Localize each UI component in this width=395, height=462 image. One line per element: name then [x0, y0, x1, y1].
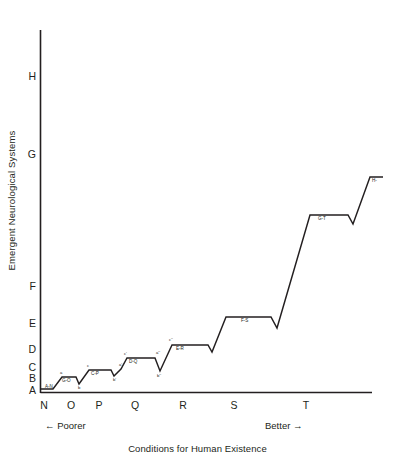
point-label-b-pp: b'' — [157, 373, 161, 378]
point-label-c: c — [87, 363, 89, 368]
direction-label-poorer: ← Poorer — [45, 421, 86, 431]
data-line-emergent-systems — [41, 177, 383, 389]
x-axis-title: Conditions for Human Existence — [0, 443, 395, 454]
segment-label-D-Q: D-Q — [129, 359, 138, 364]
point-label-c-pp: c'' — [169, 337, 173, 342]
point-label-a-pp: a'' — [156, 350, 160, 355]
segment-label-E-R: E-R — [176, 346, 185, 351]
point-label-b-p: b' — [113, 377, 116, 382]
segment-label-G-T: G-T — [318, 216, 326, 221]
segment-label-A-N: A-N — [45, 384, 53, 389]
point-label-a-p: a' — [119, 362, 122, 367]
direction-label-better: Better → — [265, 421, 303, 431]
segment-label-F-S: F-S — [241, 318, 248, 323]
segment-label-H-: H- — [372, 178, 377, 183]
point-label-a: a — [60, 370, 63, 375]
segment-label-C-P: C-P — [91, 371, 99, 376]
chart-figure: Emergent Neurological Systems H G F E D … — [0, 0, 395, 462]
plot-area: A-N G-O C-P D-Q E-R F-S G-T H- a b c a' … — [0, 0, 395, 462]
point-label-b: b — [78, 385, 81, 390]
point-label-c-p: c' — [124, 351, 127, 356]
segment-label-G-O: G-O — [62, 378, 71, 383]
